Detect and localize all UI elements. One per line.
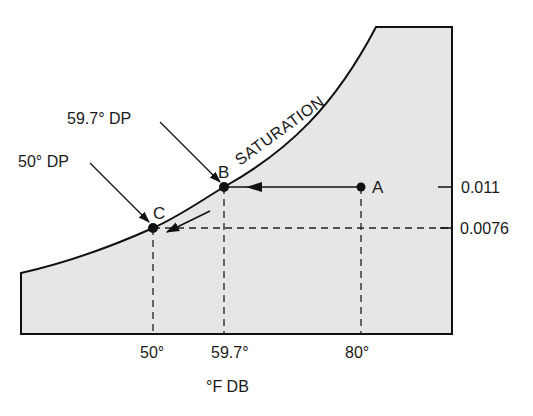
- y-tick-label-0011: 0.011: [461, 179, 500, 196]
- point-b-label: B: [218, 163, 229, 182]
- callout-b-label: 59.7° DP: [67, 110, 131, 127]
- point-c-marker: [148, 223, 158, 233]
- point-a-label: A: [372, 178, 384, 197]
- point-b-marker: [219, 182, 229, 192]
- x-tick-label-50: 50°: [140, 344, 164, 361]
- x-tick-label-59-7: 59.7°: [211, 344, 249, 361]
- chart-region: [21, 27, 452, 334]
- x-axis-label: °F DB: [206, 378, 249, 395]
- point-a-marker: [357, 183, 366, 192]
- callout-arrow-c: [90, 163, 149, 222]
- callout-c-label: 50° DP: [18, 153, 69, 170]
- psychrometric-diagram: A B C 59.7° DP 50° DP SATURATION 0.011 0…: [0, 0, 533, 416]
- point-c-label: C: [153, 204, 165, 223]
- callout-arrow-b: [160, 122, 220, 182]
- y-tick-label-00076: 0.0076: [460, 220, 509, 237]
- x-tick-label-80: 80°: [345, 344, 369, 361]
